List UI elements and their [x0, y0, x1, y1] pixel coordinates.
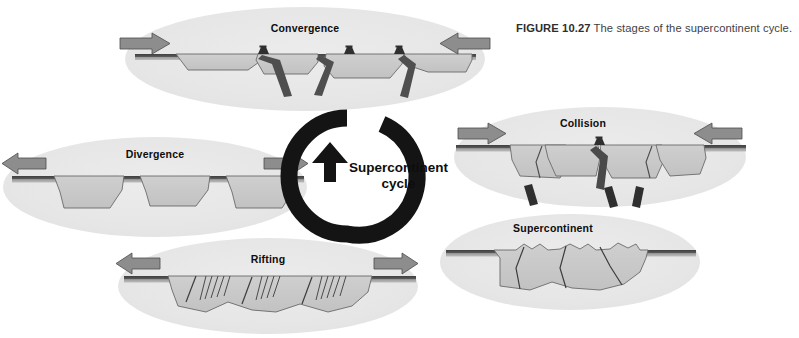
figure-caption-text: The stages of the supercontinent cycle. [594, 22, 793, 34]
stage-label-rifting: Rifting [251, 253, 286, 265]
continent-block [176, 54, 262, 70]
stage-label-convergence: Convergence [271, 22, 340, 34]
stage-label-divergence: Divergence [126, 148, 185, 160]
cycle-center-line2: cycle [341, 176, 456, 192]
figure-caption: FIGURE 10.27 The stages of the supercont… [516, 22, 799, 34]
cycle-center-line1: Supercontinent [341, 160, 456, 176]
stage-label-supercontinent: Supercontinent [513, 222, 593, 234]
continent-block [600, 145, 664, 178]
rifted-landmass [168, 276, 372, 312]
cycle-center-label: Supercontinent cycle [341, 160, 456, 192]
continent-block [140, 176, 210, 206]
continent-block [54, 176, 124, 208]
figure-root: FIGURE 10.27 The stages of the supercont… [0, 0, 799, 338]
figure-number: FIGURE 10.27 [516, 22, 591, 34]
continent-block [324, 54, 404, 78]
stage-label-collision: Collision [560, 117, 606, 129]
